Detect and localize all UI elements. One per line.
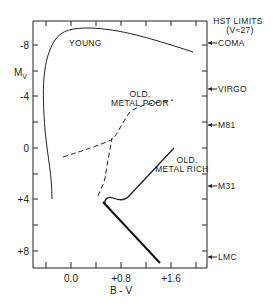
right-axis-ticks — [202, 45, 207, 251]
marker-coma: COMA — [218, 38, 245, 48]
arrow-icon — [208, 123, 212, 127]
label-young: YOUNG — [69, 38, 102, 48]
metal-poor-giant-branch — [98, 138, 112, 196]
x-tick-label: +0.8 — [111, 273, 131, 284]
marker-virgo: VIRGO — [218, 84, 247, 94]
label-old-metal-poor: METAL POOR — [111, 98, 169, 108]
arrow-icon — [208, 87, 212, 91]
label-old-metal-rich: METAL RICH — [155, 164, 209, 174]
arrow-icon — [208, 184, 212, 188]
x-axis-ticks — [46, 262, 196, 268]
y-tick-label: 0 — [23, 143, 29, 154]
y-axis-ticks — [33, 45, 38, 251]
marker-lmc: LMC — [218, 252, 237, 262]
y-tick-label: -4 — [20, 91, 29, 102]
metal-poor-branch — [63, 100, 173, 157]
marker-m81: M81 — [218, 120, 235, 130]
top-ticks — [46, 21, 196, 26]
galaxy-markers: COMA VIRGO M81 M31 LMC — [208, 38, 247, 262]
hr-diagram-chart: -8 -4 0 +4 +8 MV 0.0 +0.8 +1.6 B - V YOU… — [0, 0, 273, 306]
hst-limits-subtitle: (V≈27) — [226, 25, 253, 35]
x-axis-label: B - V — [110, 285, 133, 296]
y-tick-label: +8 — [18, 246, 30, 257]
x-tick-label: +1.6 — [161, 273, 181, 284]
x-tick-label: 0.0 — [64, 273, 78, 284]
y-tick-label: -8 — [20, 40, 29, 51]
y-axis-label: MV — [14, 67, 27, 80]
arrow-icon — [208, 41, 212, 45]
main-sequence-lower — [103, 202, 160, 263]
plot-frame — [33, 21, 207, 268]
arrow-icon — [208, 255, 212, 259]
marker-m31: M31 — [218, 181, 235, 191]
metal-rich-isochrone — [105, 148, 174, 204]
y-tick-label: +4 — [18, 194, 30, 205]
